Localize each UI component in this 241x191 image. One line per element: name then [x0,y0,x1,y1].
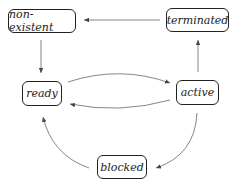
state-terminated: terminated [166,8,229,32]
arrow-blocked-to-ready [43,117,89,168]
state-label: ready [26,87,58,100]
arrow-active-to-blocked [156,113,197,168]
state-blocked: blocked [97,155,147,179]
arrow-ready-to-active [68,74,170,83]
state-label: non-existent [9,8,75,34]
arrow-active-to-ready [70,100,170,108]
state-label: active [181,86,214,99]
state-non-existent: non-existent [8,9,76,33]
state-label: terminated [167,14,229,27]
state-label: blocked [100,161,144,174]
state-active: active [176,80,219,105]
state-ready: ready [22,81,62,106]
